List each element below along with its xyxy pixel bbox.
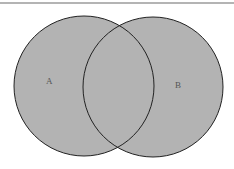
venn-diagram: A B [0, 0, 234, 169]
set-b-label: B [175, 80, 181, 90]
set-b-fill [83, 17, 223, 157]
venn-fills [14, 16, 223, 157]
set-a-label: A [46, 76, 53, 86]
